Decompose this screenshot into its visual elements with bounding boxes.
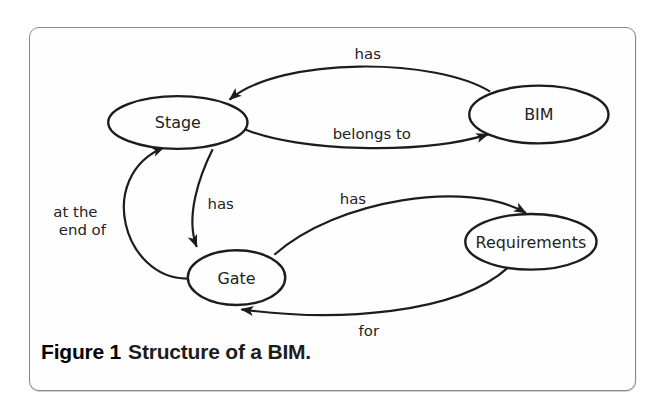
edge-label-gate-has-requirements: has	[340, 190, 367, 208]
edge-label-requirements-for-gate: for	[359, 322, 380, 340]
figure-caption: Figure 1Structure of a BIM.	[41, 340, 621, 364]
edge-label-at-the-end-of-line1: at the	[53, 203, 97, 221]
edge-label-at-the-end-of-line2: end of	[59, 221, 107, 239]
figure-caption-text: Structure of a BIM.	[128, 340, 311, 363]
edge-label-stage-has-gate: has	[207, 195, 234, 213]
edge-label-stage-belongs-to-bim: belongs to	[333, 125, 411, 143]
node-requirements-label: Requirements	[476, 233, 587, 252]
figure-caption-label: Figure 1	[41, 340, 121, 363]
node-stage-label: Stage	[155, 113, 201, 132]
node-bim-label: BIM	[524, 105, 553, 124]
node-gate-label: Gate	[217, 269, 255, 288]
edge-bim-has-stage	[230, 66, 491, 99]
edge-label-bim-has-stage: has	[355, 45, 382, 63]
edge-gate-at-the-end-of-stage	[124, 147, 187, 278]
page: Stage BIM Gate Requirements has belongs …	[0, 0, 666, 416]
bim-structure-diagram: Stage BIM Gate Requirements has belongs …	[30, 28, 635, 390]
figure-card: Stage BIM Gate Requirements has belongs …	[29, 27, 636, 391]
